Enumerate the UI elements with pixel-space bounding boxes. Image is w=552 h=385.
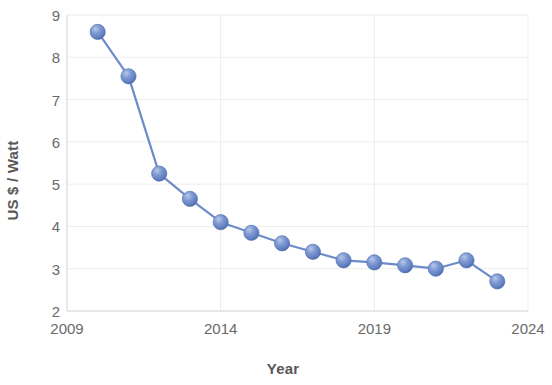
axis-lines <box>67 15 528 311</box>
plot-area <box>0 0 552 385</box>
data-series-line <box>98 32 498 282</box>
chart-container: US $ / Watt Year 23456789 20092014201920… <box>0 0 552 385</box>
gridlines <box>67 15 528 311</box>
data-point-markers <box>90 24 505 289</box>
